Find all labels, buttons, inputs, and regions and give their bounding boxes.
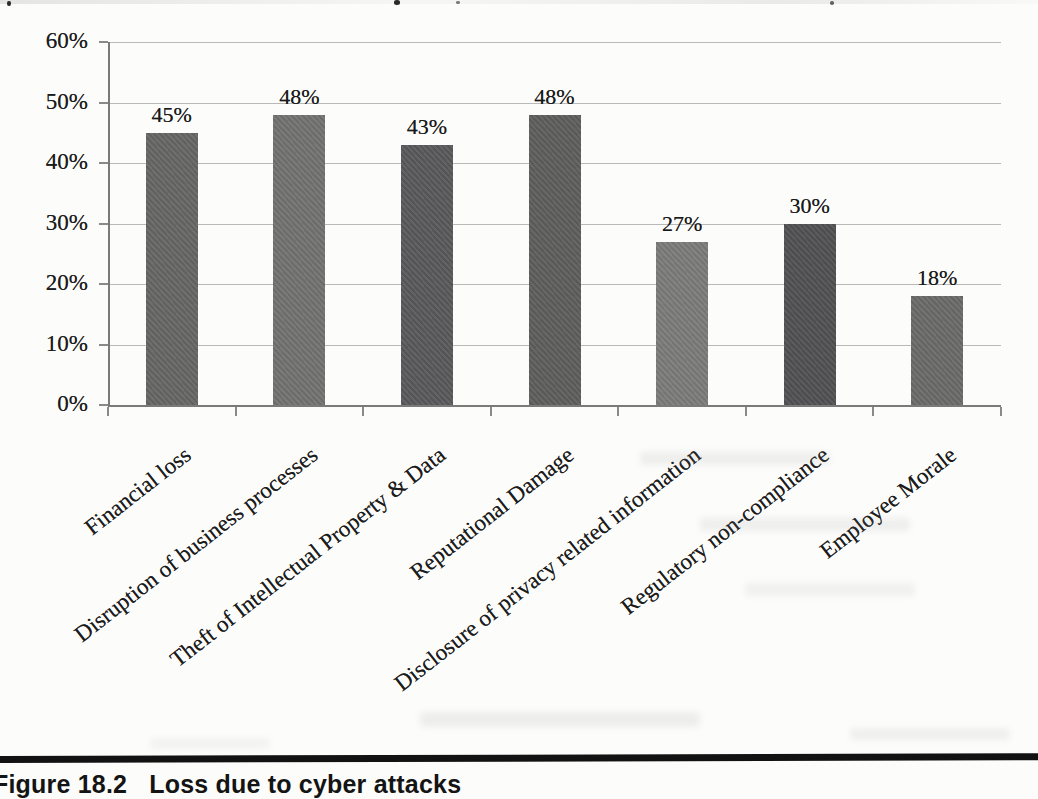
x-axis-tick	[1000, 407, 1002, 416]
x-axis-category-label: Employee Morale	[815, 442, 961, 564]
bar-value-label: 43%	[382, 114, 472, 140]
bar-value-label: 48%	[254, 84, 344, 110]
bar-chart: 60%50%40%30%20%10%0%45%Financial loss48%…	[0, 0, 1038, 760]
figure-caption-label: Figure 18.2	[0, 770, 127, 798]
x-axis-tick	[617, 407, 619, 416]
bar-value-label: 48%	[510, 84, 600, 110]
x-axis-tick	[107, 407, 109, 416]
y-axis-tick	[99, 102, 108, 104]
bar	[401, 145, 453, 405]
x-axis-tick	[362, 407, 364, 416]
y-axis-tick-label: 60%	[18, 28, 88, 54]
bar	[656, 242, 708, 405]
y-axis-line	[108, 42, 110, 405]
gridline	[108, 42, 1001, 43]
bar	[529, 115, 581, 405]
y-axis-tick	[99, 41, 108, 43]
bleed-through-smudge	[640, 452, 830, 465]
y-axis-tick-label: 20%	[18, 270, 88, 296]
bleed-through-smudge	[420, 712, 700, 727]
bleed-through-smudge	[150, 738, 270, 749]
y-axis-tick-label: 10%	[18, 331, 88, 357]
y-axis-tick-label: 30%	[18, 210, 88, 236]
y-axis-tick-label: 50%	[18, 89, 88, 115]
y-axis-tick	[99, 283, 108, 285]
y-axis-tick-label: 0%	[18, 391, 88, 417]
bleed-through-smudge	[745, 583, 915, 596]
bar	[784, 224, 836, 406]
figure-caption: Figure 18.2Loss due to cyber attacks	[0, 770, 461, 799]
horizontal-rule	[0, 753, 1038, 763]
bar-value-label: 27%	[637, 211, 727, 237]
x-axis-line	[108, 405, 1001, 407]
x-axis-tick	[235, 407, 237, 416]
bleed-through-smudge	[850, 728, 1010, 740]
bar-value-label: 45%	[127, 102, 217, 128]
y-axis-tick	[99, 344, 108, 346]
bar	[273, 115, 325, 405]
x-axis-category-label: Theft of Intellectual Property & Data	[166, 442, 451, 673]
y-axis-tick	[99, 162, 108, 164]
y-axis-tick-label: 40%	[18, 149, 88, 175]
x-axis-tick	[872, 407, 874, 416]
bleed-through-smudge	[700, 518, 910, 531]
figure-caption-title: Loss due to cyber attacks	[149, 770, 461, 798]
y-axis-tick	[99, 223, 108, 225]
x-axis-tick	[490, 407, 492, 416]
bar	[146, 133, 198, 405]
bar-value-label: 18%	[892, 265, 982, 291]
x-axis-category-label: Financial loss	[80, 442, 196, 541]
x-axis-category-label: Disruption of business processes	[70, 442, 323, 648]
bar-value-label: 30%	[765, 193, 855, 219]
bar	[911, 296, 963, 405]
y-axis-tick	[99, 404, 108, 406]
x-axis-tick	[745, 407, 747, 416]
